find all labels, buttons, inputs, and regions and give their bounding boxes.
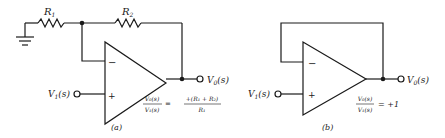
output-terminal-icon xyxy=(197,76,203,82)
output-label: V0(s) xyxy=(407,75,429,86)
junction-dot-icon xyxy=(180,77,185,82)
inverting-input-sign: − xyxy=(108,57,116,68)
input-terminal-icon xyxy=(74,91,80,97)
svg-text:V₀(s): V₀(s) xyxy=(358,95,373,102)
inverting-input-sign: − xyxy=(308,58,316,69)
caption-a: (a) xyxy=(111,123,122,132)
opamp-circuits-diagram: R1 R2 − + V0(s) V1(s) V₀(s) V₁(s) = +(R₁… xyxy=(0,0,445,138)
output-label: V0(s) xyxy=(207,75,229,86)
noninverting-input-sign: + xyxy=(308,90,316,100)
caption-b: (b) xyxy=(322,123,333,132)
circuit-a: R1 R2 − + V0(s) V1(s) V₀(s) V₁(s) = +(R₁… xyxy=(16,6,229,132)
r2-label: R2 xyxy=(121,6,134,18)
input-terminal-icon xyxy=(275,91,281,97)
svg-text:R₁: R₁ xyxy=(198,106,206,113)
r1-label: R1 xyxy=(43,6,55,18)
svg-text:+(R₁ + R₂): +(R₁ + R₂) xyxy=(186,95,219,102)
resistor-r1-icon xyxy=(38,19,64,27)
transfer-function-b: V₀(s) V₁(s) = +1 xyxy=(356,95,399,113)
feedback-wire xyxy=(82,23,105,61)
feedback-wire xyxy=(281,23,383,79)
input-label: V1(s) xyxy=(48,89,70,100)
output-terminal-icon xyxy=(398,76,404,82)
svg-text:V₁(s): V₁(s) xyxy=(145,106,160,113)
svg-text:V₁(s): V₁(s) xyxy=(358,106,373,113)
ground-icon xyxy=(16,23,34,45)
circuit-b: − + V0(s) V1(s) V₀(s) V₁(s) = +1 (b) xyxy=(248,23,429,132)
svg-text:=: = xyxy=(165,100,171,108)
noninverting-input-sign: + xyxy=(108,91,116,101)
transfer-function-a: V₀(s) V₁(s) = +(R₁ + R₂) R₁ xyxy=(143,95,221,113)
resistor-r2-icon xyxy=(115,19,141,27)
svg-text:V₀(s): V₀(s) xyxy=(145,95,160,102)
svg-text:= +1: = +1 xyxy=(378,100,399,109)
input-label: V1(s) xyxy=(248,89,270,100)
junction-dot-icon xyxy=(381,77,386,82)
